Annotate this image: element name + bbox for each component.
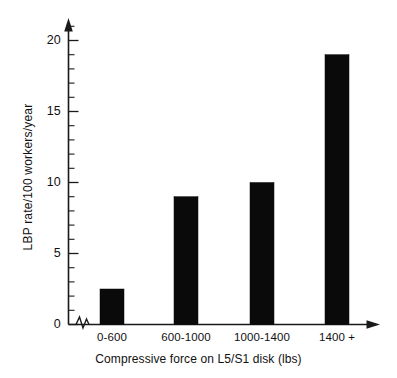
x-axis-title: Compressive force on L5/S1 disk (lbs) (0, 352, 397, 366)
y-tick-label-0: 0 (33, 317, 61, 331)
arrow-up-icon (64, 18, 73, 32)
axis-break-zigzag-icon (76, 317, 89, 328)
bar-1000-1400 (250, 183, 274, 325)
y-axis-title: LBP rate/100 workers/year (21, 72, 35, 282)
y-tick-label-5: 5 (33, 246, 61, 260)
y-tick-label-10: 10 (33, 175, 61, 189)
bar-chart-figure: 20 15 10 5 0 0-600 600-1000 1000-1400 14… (0, 0, 397, 378)
y-tick-label-20: 20 (33, 33, 61, 47)
x-tick-label-1400-plus: 1400 + (297, 331, 377, 343)
bar-0-600 (100, 289, 124, 325)
x-tick-label-1000-1400: 1000-1400 (222, 331, 302, 343)
y-tick-label-15: 15 (33, 104, 61, 118)
bar-600-1000 (174, 197, 198, 325)
arrow-right-icon (367, 320, 381, 329)
x-tick-label-600-1000: 600-1000 (146, 331, 226, 343)
bar-1400-plus (325, 55, 349, 325)
x-tick-label-0-600: 0-600 (72, 331, 152, 343)
